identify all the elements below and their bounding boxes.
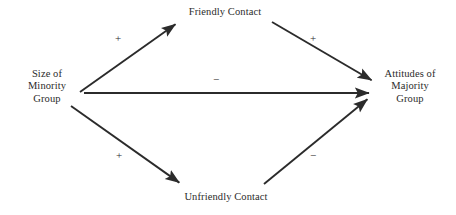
node-label-line: Size of xyxy=(0,68,94,80)
edge-sign-unfriendly-to-majority: − xyxy=(306,150,320,161)
node-attitudes-of-majority-group: Attitudes of Majority Group xyxy=(364,68,456,105)
edge-sign-minority-to-friendly: + xyxy=(111,33,125,44)
node-label-line: Group xyxy=(364,93,456,105)
edge-sign-friendly-to-majority: + xyxy=(306,33,320,44)
edge-friendly-to-majority xyxy=(272,22,372,80)
diagram-canvas: Size of Minority Group Friendly Contact … xyxy=(0,0,456,215)
node-unfriendly-contact: Unfriendly Contact xyxy=(161,191,291,203)
diagram-edges xyxy=(0,0,456,215)
edge-sign-minority-to-unfriendly: + xyxy=(112,150,126,161)
node-label-line: Friendly Contact xyxy=(160,6,290,18)
edge-sign-minority-to-majority: − xyxy=(209,74,223,85)
node-size-of-minority-group: Size of Minority Group xyxy=(0,68,94,105)
node-friendly-contact: Friendly Contact xyxy=(160,6,290,18)
node-label-line: Group xyxy=(0,93,94,105)
edge-minority-to-unfriendly xyxy=(71,106,179,183)
node-label-line: Minority xyxy=(0,80,94,92)
edge-unfriendly-to-majority xyxy=(264,99,367,184)
node-label-line: Attitudes of xyxy=(364,68,456,80)
node-label-line: Unfriendly Contact xyxy=(161,191,291,203)
node-label-line: Majority xyxy=(364,80,456,92)
edge-minority-to-friendly xyxy=(80,24,176,92)
